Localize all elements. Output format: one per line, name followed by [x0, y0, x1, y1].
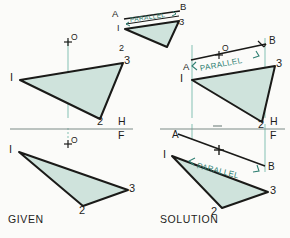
- given-front-view-triangle: [19, 152, 128, 206]
- given-front-vertex-2-label: 2: [79, 205, 85, 216]
- solution-top-label-a: A: [183, 62, 189, 72]
- solution-front-vertex-3-label: 3: [270, 185, 276, 196]
- solution-inset-triangle: [125, 21, 179, 47]
- solution-front-point-cross: [214, 145, 224, 155]
- solution-front-label-a: A: [172, 130, 179, 140]
- solution-inset-vertex-2-label: 2: [119, 44, 124, 53]
- given-top-view-triangle: [20, 63, 123, 119]
- given-caption: GIVEN: [8, 214, 44, 225]
- fold-line-right-h-label: H: [270, 116, 278, 127]
- solution-top-vertex-1-label: I: [180, 73, 183, 84]
- solution-top-view-triangle: [192, 66, 275, 122]
- given-top-vertex-1-label: I: [10, 72, 13, 83]
- solution-top-vertex-3-label: 3: [276, 58, 282, 69]
- solution-top-label-b: B: [269, 36, 276, 46]
- solution-inset-label-b: B: [180, 2, 186, 12]
- solution-top-point-o-label: O: [222, 44, 229, 53]
- given-front-vertex-3-label: 3: [129, 183, 135, 194]
- fold-line-left-h-label: H: [118, 116, 126, 127]
- given-front-vertex-1-label: I: [9, 144, 12, 155]
- given-front-point-o-label: O: [71, 136, 78, 145]
- solution-inset-vertex-1-label: I: [117, 24, 120, 33]
- given-top-point-o-label: O: [71, 33, 78, 42]
- fold-line-left-f-label: F: [118, 130, 124, 141]
- solution-front-view-triangle: [172, 156, 268, 208]
- solution-top-vertex-2-label: 2: [258, 119, 264, 130]
- solution-caption: SOLUTION: [160, 214, 218, 225]
- descriptive-geometry-diagram: [0, 0, 290, 238]
- fold-line-right-f-label: F: [270, 130, 276, 141]
- given-top-vertex-3-label: 3: [124, 55, 130, 66]
- solution-inset-vertex-3-label: 3: [179, 17, 184, 27]
- given-top-vertex-2-label: 2: [97, 116, 103, 127]
- solution-front-vertex-1-label: I: [163, 149, 166, 160]
- solution-inset-label-a: A: [112, 9, 118, 19]
- solution-front-label-b: B: [268, 162, 275, 172]
- drawing-canvas: I 2 3 O I 2 3 O H F GIVEN A B I 2 3 PARA…: [0, 0, 290, 238]
